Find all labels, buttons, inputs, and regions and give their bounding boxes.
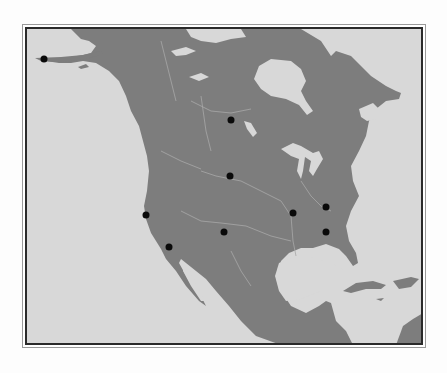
location-marker-great-plains[interactable] [227, 173, 234, 180]
location-marker-east-coast-north[interactable] [323, 204, 330, 211]
location-marker-northern-california[interactable] [143, 212, 150, 219]
location-marker-mississippi-valley[interactable] [290, 210, 297, 217]
location-marker-southwest[interactable] [221, 229, 228, 236]
location-marker-central-canada[interactable] [228, 117, 235, 124]
map-frame [22, 24, 426, 348]
location-marker-southern-california[interactable] [166, 244, 173, 251]
north-america-map [27, 29, 423, 345]
map-canvas [25, 27, 423, 345]
location-marker-alaska[interactable] [41, 56, 48, 63]
location-marker-east-coast-south[interactable] [323, 229, 330, 236]
